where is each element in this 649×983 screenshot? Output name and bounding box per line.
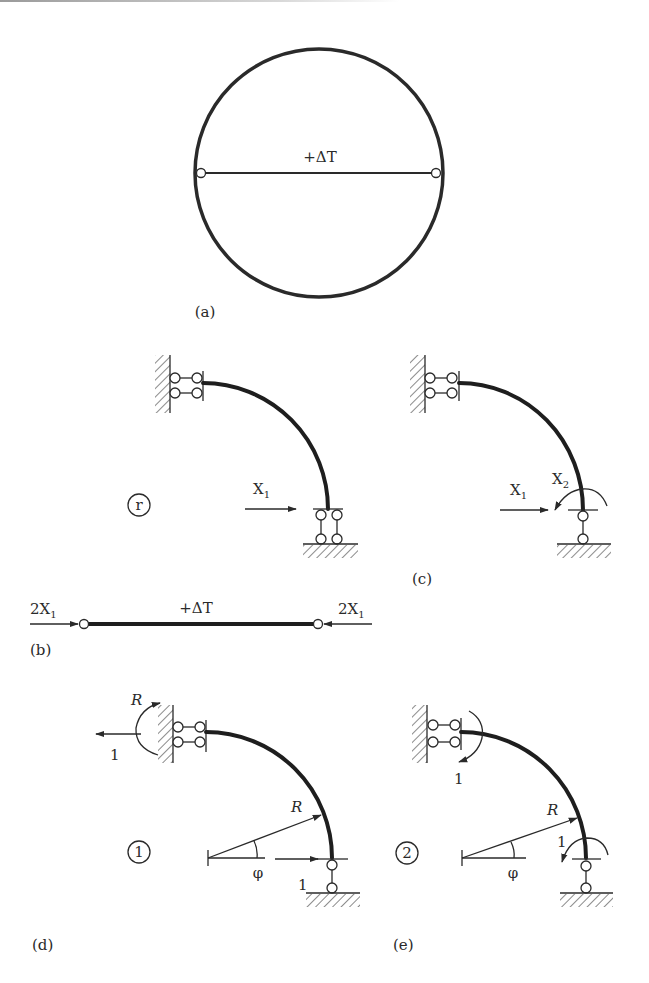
angle-label: φ [508,864,519,882]
delta-t-label-a: +ΔT [303,148,336,166]
angle-arc [511,842,514,858]
moment-x2-label: X2 [552,470,569,490]
angle-label: φ [253,864,264,882]
panel-label-a: (a) [195,303,216,321]
force-x1-label: X1 [253,480,270,500]
link-hinge [192,388,202,398]
moment-r-label: R [130,691,142,709]
radius-label: R [290,798,302,816]
radius-arrow [208,815,321,858]
panel-label-c: (c) [412,570,432,588]
panel-b: 2X1 2X1 +ΔT (b) [30,599,372,659]
link-hinge [192,373,202,383]
delta-t-label-b: +ΔT [179,599,212,617]
panel-c: X1 X2 (c) [410,355,611,588]
top-unit-moment-arrow [459,711,482,762]
svg-text:r: r [135,496,143,514]
force-left-label: 2X1 [30,600,57,620]
panel-d: R 1 R φ 1 1 (d) [32,691,360,954]
hinge-left [197,169,206,178]
moment-r-arrow [136,703,160,755]
top-unit-moment-label: 1 [454,770,464,788]
radius-label: R [546,801,558,819]
panel-label-d: (d) [32,936,53,954]
angle-arc [254,841,257,858]
force-right-label: 2X1 [338,600,365,620]
wall-hatch [155,355,170,413]
ground-hatch [303,545,358,558]
structural-diagram: +ΔT (a) X1 r [0,0,649,983]
link-hinge [170,388,180,398]
unit-force-label: 1 [110,746,120,764]
panel-r: X1 r [128,355,358,558]
curved-member [461,732,586,858]
bottom-unit-moment-label: 1 [557,833,567,851]
panel-label-b: (b) [30,641,51,659]
wall-hatch [410,355,425,413]
svg-text:1: 1 [134,843,144,861]
link-hinge [170,373,180,383]
curved-member [206,732,332,858]
svg-text:2: 2 [402,844,412,862]
panel-a: +ΔT (a) [195,49,443,321]
force-x1-label: X1 [510,481,527,501]
panel-e: 1 R φ 1 2 (e) [393,705,613,954]
panel-label-e: (e) [393,936,414,954]
hinge-right [432,169,441,178]
bottom-unit-force-label: 1 [298,876,308,894]
